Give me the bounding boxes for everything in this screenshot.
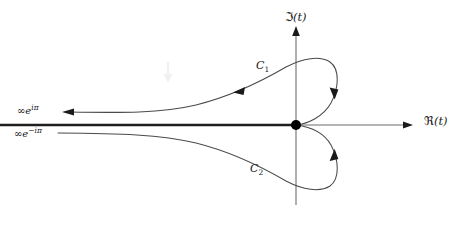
contour-c2-label: C2 (250, 163, 263, 177)
watermark-artifact (164, 62, 173, 83)
contour-c1-label: C1 (256, 60, 269, 74)
c1-arrowhead-outbound (62, 108, 74, 115)
real-axis-label: ℜ(t) (424, 116, 448, 128)
branch-point-dot (291, 120, 301, 130)
upper-ray-exponent: iπ (31, 103, 38, 112)
imaginary-axis (292, 26, 300, 205)
imaginary-axis-symbol: ℑ (285, 10, 293, 24)
contour-c1-label-sub: 1 (264, 65, 269, 74)
c2-arrowhead-loop (330, 149, 339, 161)
lower-ray-exponent: −iπ (28, 126, 42, 135)
imaginary-axis-arg: (t) (293, 10, 307, 24)
contour-c1 (62, 58, 338, 125)
real-axis-arg: (t) (434, 114, 448, 128)
contour-c2-label-sub: 2 (258, 168, 263, 177)
real-axis (0, 121, 413, 128)
c1-arrowhead-loop (330, 88, 339, 100)
c1-arrowhead-inbound (233, 87, 245, 95)
real-axis-arrowhead (403, 121, 413, 128)
contour-figure: ℑ(t) ℜ(t) C1 C2 ∞eiπ ∞e−iπ (0, 0, 462, 233)
imaginary-axis-arrowhead (292, 26, 300, 36)
lower-ray-label: ∞e−iπ (14, 127, 42, 139)
real-axis-symbol: ℜ (424, 114, 434, 128)
contour-plot-svg (0, 0, 462, 233)
imaginary-axis-label: ℑ(t) (285, 12, 307, 24)
upper-ray-label: ∞eiπ (17, 104, 39, 116)
